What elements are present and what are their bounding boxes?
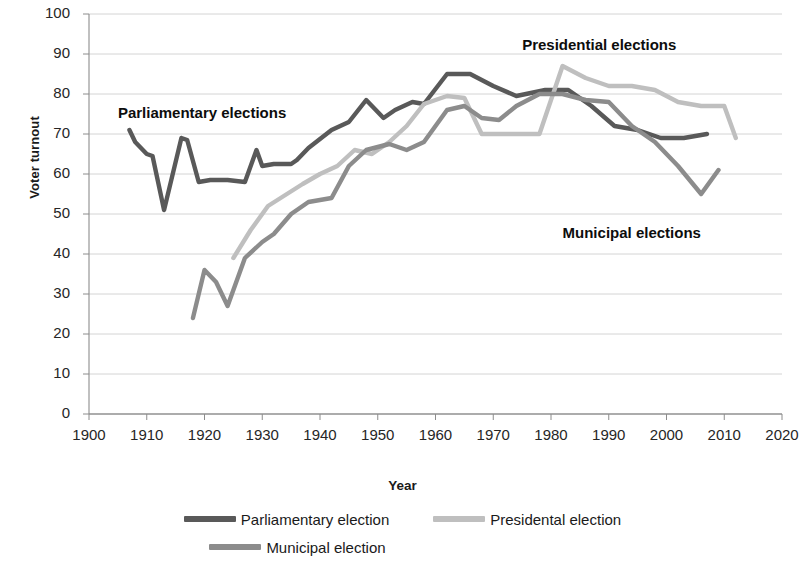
y-tick-10: 10	[18, 364, 70, 381]
legend-label-presidential: Presidental election	[490, 511, 621, 528]
y-tick-40: 40	[18, 244, 70, 261]
legend-item-parliamentary: Parliamentary election	[184, 511, 389, 528]
y-tick-30: 30	[18, 284, 70, 301]
y-tick-50: 50	[18, 204, 70, 221]
legend-swatch-parliamentary	[184, 516, 236, 522]
y-tick-20: 20	[18, 324, 70, 341]
y-tick-60: 60	[18, 164, 70, 181]
y-tick-100: 100	[18, 4, 70, 21]
x-tick-2020: 2020	[747, 426, 805, 443]
legend-row-second: Municipal election	[0, 533, 805, 561]
legend-label-parliamentary: Parliamentary election	[241, 511, 389, 528]
legend-swatch-presidential	[433, 516, 485, 522]
legend-label-municipal: Municipal election	[266, 539, 385, 556]
y-tick-0: 0	[18, 404, 70, 421]
legend-swatch-municipal	[209, 544, 261, 550]
y-tick-80: 80	[18, 84, 70, 101]
annotation-presidential: Presidential elections	[522, 36, 676, 53]
y-tick-70: 70	[18, 124, 70, 141]
voter-turnout-line-chart: Voter turnout Year 100908070605040302010…	[0, 0, 805, 566]
chart-legend: Parliamentary election Presidental elect…	[0, 505, 805, 561]
legend-item-presidential: Presidental election	[433, 511, 621, 528]
annotation-parliamentary: Parliamentary elections	[118, 104, 286, 121]
x-axis-title: Year	[0, 478, 805, 493]
legend-item-municipal: Municipal election	[209, 539, 385, 556]
annotation-municipal: Municipal elections	[563, 224, 701, 241]
legend-row-first: Parliamentary election Presidental elect…	[0, 505, 805, 533]
y-tick-90: 90	[18, 44, 70, 61]
